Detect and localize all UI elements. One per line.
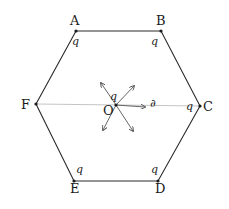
charge-label-e: q <box>76 163 83 176</box>
charge-label-c: q <box>186 100 193 113</box>
vertex-label-f: F <box>21 97 30 112</box>
point-o <box>114 103 117 106</box>
hexagon-diagram: ∂ AqBqCqDqEqFOq <box>0 0 229 209</box>
point-a <box>74 29 77 32</box>
vertex-label-d: D <box>155 181 165 196</box>
arrow-down-right-icon <box>116 105 133 131</box>
charge-label-o: q <box>110 90 117 103</box>
vertex-label-b: B <box>156 13 166 28</box>
point-f <box>34 102 37 105</box>
charge-label-d: q <box>151 163 158 176</box>
vertex-label-e: E <box>70 181 80 196</box>
vertex-label-o: O <box>103 103 114 118</box>
vertex-label-a: A <box>69 13 80 28</box>
center-annotation: ∂ <box>150 97 156 110</box>
point-c <box>198 104 201 107</box>
arrow-up-right-icon <box>116 86 134 105</box>
charge-label-a: q <box>72 35 79 48</box>
charge-label-b: q <box>151 35 158 48</box>
point-b <box>159 29 162 32</box>
vertex-label-c: C <box>203 99 213 114</box>
hexagon-svg: ∂ AqBqCqDqEqFOq <box>0 0 229 209</box>
